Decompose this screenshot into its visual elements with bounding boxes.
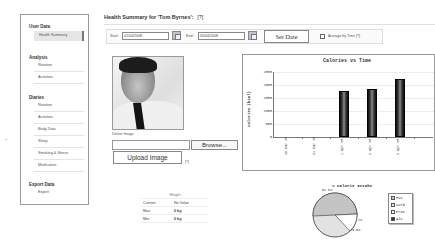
- chart-title: Calories vs Time: [323, 58, 371, 64]
- calories-vs-time-chart: Calories vs Time Calories (kcal) 2500 20…: [242, 54, 435, 171]
- end-calendar-icon[interactable]: [248, 31, 257, 40]
- average-help-link[interactable]: [?]: [356, 34, 360, 38]
- page-title: Health Summary for 'Tom Byrnes': [?]: [104, 14, 203, 20]
- x-tick-mark: [330, 137, 331, 139]
- x-tick-label: 29 Mar 08: [284, 137, 288, 155]
- weight-row-label: Max:: [141, 207, 174, 214]
- pie-chart-title: % Calorie Intake: [332, 184, 372, 188]
- photo-hair: [119, 57, 157, 73]
- weight-row-label: Min:: [141, 215, 174, 222]
- table-row: Max: 0 kg: [141, 207, 209, 215]
- sidebar-item-medication[interactable]: Medication: [34, 161, 84, 172]
- y-tick: 500: [258, 122, 272, 126]
- profile-photo: [112, 56, 184, 130]
- legend-label: Carb: [396, 203, 405, 207]
- chart-plot-area: 2500 2000 1500 1000 500 0: [273, 72, 433, 138]
- weight-table: Weight Current: No Value Max: 0 kg Min: …: [141, 191, 209, 223]
- y-tick: 1500: [258, 96, 272, 100]
- sidebar-item-health-summary[interactable]: Health Summary: [34, 31, 84, 41]
- legend-label: Prot.: [396, 210, 407, 214]
- legend-label: Alc: [396, 217, 403, 221]
- gridline: [274, 85, 434, 86]
- upload-image-button[interactable]: Upload Image: [113, 151, 182, 164]
- gridline: [274, 124, 434, 125]
- sidebar-item-sleep[interactable]: Sleep: [34, 137, 84, 148]
- legend-label: Fat: [396, 196, 403, 200]
- photo-shirt: [113, 101, 184, 130]
- delete-image-link[interactable]: Delete Image: [112, 132, 133, 136]
- start-calendar-icon[interactable]: [172, 31, 181, 40]
- sidebar-section-diaries: Diaries: [29, 95, 44, 100]
- help-link[interactable]: [?]: [197, 14, 203, 20]
- legend-swatch: [391, 203, 395, 207]
- legend-item-prot: Prot.: [389, 208, 412, 215]
- x-tick-mark: [302, 137, 303, 139]
- y-tick: 2000: [258, 83, 272, 87]
- calorie-intake-pie-chart: [312, 192, 358, 238]
- table-row: Current: No Value: [141, 199, 209, 207]
- bar-1-apr: [339, 91, 349, 137]
- sidebar-item-body-data[interactable]: Body Data: [34, 125, 84, 136]
- legend-item-carb: Carb: [389, 201, 412, 208]
- end-date-label: End:: [186, 34, 193, 38]
- table-row: Min: 0 kg: [141, 215, 209, 223]
- weight-row-value: 0 kg: [174, 207, 209, 214]
- pie-legend: Fat Carb Prot. Alc: [388, 193, 413, 224]
- legend-swatch: [391, 196, 395, 200]
- weight-row-value: No Value: [174, 199, 209, 206]
- sidebar-item-smoking-stress[interactable]: Smoking & Stress: [34, 149, 84, 160]
- title-divider: [104, 24, 435, 25]
- x-tick-mark: [358, 137, 359, 139]
- end-date-input[interactable]: 05/04/2008: [198, 32, 245, 40]
- weight-row-value: 0 kg: [174, 215, 209, 222]
- y-tick: 1000: [258, 109, 272, 113]
- bar-2-apr: [367, 89, 377, 137]
- sidebar-section-export-data: Export Data: [29, 182, 54, 187]
- image-file-input[interactable]: [112, 140, 190, 150]
- weight-table-title: Weight: [141, 191, 209, 199]
- sidebar-section-user-data: User Data: [29, 24, 50, 29]
- page-title-text: Health Summary for 'Tom Byrnes':: [104, 14, 194, 20]
- pie-slice-fat: [313, 193, 357, 216]
- bar-3-apr: [395, 79, 405, 137]
- gridline: [274, 111, 434, 112]
- upload-help-link[interactable]: [?]: [185, 160, 189, 164]
- legend-item-alc: Alc: [389, 215, 412, 222]
- x-tick-mark: [386, 137, 387, 139]
- start-date-input[interactable]: 01/04/2008: [122, 32, 169, 40]
- x-tick-label: 1 Apr 08: [340, 139, 344, 155]
- set-date-button[interactable]: Set Date: [264, 30, 309, 43]
- sidebar-item-analysis-activities[interactable]: Activities: [34, 73, 84, 84]
- chart-y-axis-label: Calories (kcal): [247, 91, 251, 127]
- start-date-label: Start:: [110, 34, 119, 38]
- stray-mark: [5, 139, 7, 140]
- sidebar-item-analysis-nutrition[interactable]: Nutrition: [34, 61, 84, 72]
- sidebar-item-diary-nutrition[interactable]: Nutrition: [34, 101, 84, 112]
- x-tick-mark: [414, 137, 415, 139]
- sidebar-nav: User Data Health Summary Analysis Nutrit…: [20, 14, 89, 205]
- sidebar-section-analysis: Analysis: [29, 55, 48, 60]
- legend-swatch: [391, 210, 395, 214]
- x-tick-label: 3 Apr 08: [396, 139, 400, 155]
- sidebar-item-diary-activities[interactable]: Activities: [34, 113, 84, 124]
- average-by-time-checkbox[interactable]: [320, 34, 325, 39]
- legend-item-fat: Fat: [389, 194, 412, 201]
- sidebar-item-export[interactable]: Export: [34, 188, 84, 199]
- gridline: [274, 72, 434, 73]
- weight-row-label: Current:: [141, 199, 174, 206]
- x-tick-label: 31 Mar 08: [312, 137, 316, 155]
- x-tick-label: 2 Apr 08: [368, 139, 372, 155]
- y-tick: 2500: [258, 70, 272, 74]
- legend-swatch: [391, 217, 395, 221]
- browse-button[interactable]: Browse...: [191, 140, 238, 150]
- y-tick: 0: [258, 135, 272, 139]
- gridline: [274, 98, 434, 99]
- average-by-time-text: Average by Time: [328, 34, 355, 38]
- average-by-time-label: Average by Time [?]: [328, 34, 360, 38]
